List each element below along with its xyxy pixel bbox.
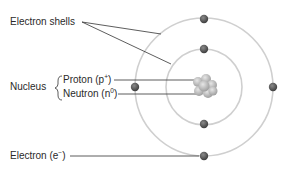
nucleus-brace xyxy=(55,76,62,100)
electron-inner-bottom xyxy=(200,120,208,128)
label-proton: Proton (p+) xyxy=(63,73,111,85)
electron-outer-bottom xyxy=(200,152,208,160)
electron-outer-left xyxy=(131,83,139,91)
label-neutron: Neutron (n0) xyxy=(63,87,117,99)
label-nucleus: Nucleus xyxy=(10,81,46,92)
atom-diagram: Electron shells Nucleus Proton (p+) Neut… xyxy=(0,0,290,174)
label-electron: Electron (e−) xyxy=(10,149,66,161)
electron-outer-top xyxy=(200,15,208,23)
electron-inner-top xyxy=(200,45,208,53)
nucleus-cluster xyxy=(193,74,218,98)
electron-outer-right xyxy=(269,83,277,91)
label-electron-shells: Electron shells xyxy=(10,16,75,27)
shells-leader-inner xyxy=(82,22,171,64)
